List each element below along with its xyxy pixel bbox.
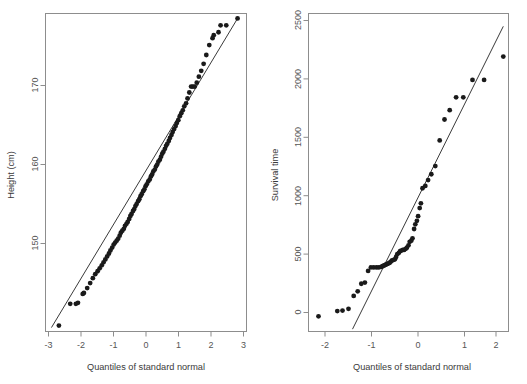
plot-frame <box>309 14 509 332</box>
x-tick-label-2: 2 <box>208 340 213 350</box>
data-point <box>351 294 356 299</box>
data-point <box>346 306 351 311</box>
data-point <box>85 286 90 291</box>
x-tick-label-1: 1 <box>462 340 467 350</box>
data-point <box>68 301 73 306</box>
data-point <box>433 164 438 169</box>
data-point <box>201 61 206 66</box>
data-point <box>410 236 415 241</box>
data-point <box>218 23 223 28</box>
data-point-group <box>316 54 506 319</box>
data-point <box>235 16 240 21</box>
data-point <box>482 78 487 83</box>
y-tick-label-0: 0 <box>293 309 303 314</box>
data-point <box>355 289 360 294</box>
data-point <box>340 308 345 313</box>
data-point <box>470 78 475 83</box>
x-tick-label--1: -1 <box>109 340 117 350</box>
x-tick-label--2: -2 <box>77 340 85 350</box>
y-tick-label-150: 150 <box>30 235 40 250</box>
survival-qq-svg: 2500 2000 1500 1000 500 0 -2 -1 0 1 2 Su… <box>264 0 527 384</box>
data-point-group <box>57 16 240 328</box>
x-tick-label-1: 1 <box>176 340 181 350</box>
data-point <box>363 280 368 285</box>
data-point <box>57 323 62 328</box>
data-point <box>442 117 447 122</box>
y-tick-label-500: 500 <box>293 246 303 261</box>
y-tick-label-2000: 2000 <box>293 69 303 89</box>
data-point <box>184 101 189 106</box>
height-qq-panel: 170 160 150 -3 -2 -1 0 1 2 3 Height (cm) <box>0 0 264 384</box>
x-tick-label-2: 2 <box>493 340 498 350</box>
figure-canvas: 170 160 150 -3 -2 -1 0 1 2 3 Height (cm) <box>0 0 527 384</box>
data-point <box>417 206 422 211</box>
data-point <box>185 96 190 101</box>
data-point <box>207 43 212 48</box>
y-axis-title: Height (cm) <box>6 151 16 198</box>
x-tick-label-3: 3 <box>241 340 246 350</box>
data-point <box>461 95 466 100</box>
x-axis-title: Quantiles of standard normal <box>353 362 471 372</box>
y-tick-label-170: 170 <box>30 77 40 92</box>
data-point <box>426 178 431 183</box>
x-axis-ticks <box>325 332 496 337</box>
data-point <box>423 184 428 189</box>
data-point <box>88 281 93 286</box>
x-axis-title: Quantiles of standard normal <box>87 362 205 372</box>
y-axis-ticks <box>304 21 309 313</box>
data-point <box>415 218 420 223</box>
data-point <box>211 33 216 38</box>
height-qq-svg: 170 160 150 -3 -2 -1 0 1 2 3 Height (cm) <box>0 0 264 384</box>
data-point <box>204 53 209 58</box>
x-tick-label--2: -2 <box>321 340 329 350</box>
x-tick-label--1: -1 <box>367 340 375 350</box>
y-tick-label-1000: 1000 <box>293 186 303 206</box>
data-point <box>416 214 421 219</box>
data-point <box>335 309 340 314</box>
qq-reference-line <box>51 18 237 327</box>
data-point <box>196 74 201 79</box>
data-point <box>316 314 321 319</box>
data-point <box>224 23 229 28</box>
data-point <box>216 30 221 35</box>
x-tick-label-0: 0 <box>143 340 148 350</box>
x-tick-label-0: 0 <box>415 340 420 350</box>
data-point <box>419 201 424 206</box>
data-point <box>194 80 199 85</box>
data-point <box>412 227 417 232</box>
y-axis-ticks <box>41 86 46 244</box>
data-point <box>447 108 452 113</box>
survival-qq-panel: 2500 2000 1500 1000 500 0 -2 -1 0 1 2 Su… <box>264 0 527 384</box>
y-tick-label-1500: 1500 <box>293 127 303 147</box>
data-point <box>501 54 506 59</box>
data-point <box>82 291 87 296</box>
data-point <box>437 138 442 143</box>
data-point <box>199 68 204 73</box>
plot-frame <box>46 14 247 332</box>
x-axis-ticks <box>49 332 244 337</box>
data-point <box>454 95 459 100</box>
y-tick-label-160: 160 <box>30 156 40 171</box>
y-tick-label-2500: 2500 <box>293 10 303 30</box>
data-point <box>429 172 434 177</box>
y-axis-title: Survival time <box>270 149 280 202</box>
data-point <box>187 90 192 95</box>
data-point <box>76 300 81 305</box>
x-tick-label--3: -3 <box>44 340 52 350</box>
